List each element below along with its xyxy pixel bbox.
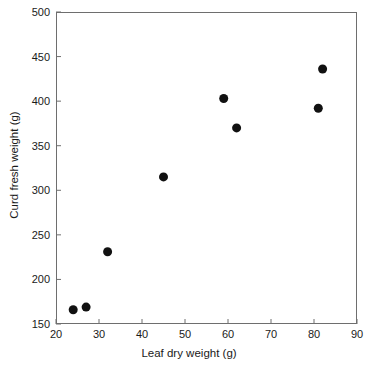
y-tick-label: 300: [20, 185, 50, 196]
y-tick-label: 350: [20, 140, 50, 151]
x-tick-label: 70: [265, 329, 277, 340]
data-point: [232, 123, 241, 132]
data-point: [219, 94, 228, 103]
x-axis-title: Leaf dry weight (g): [0, 347, 378, 359]
data-point: [103, 247, 112, 256]
y-tick-label: 200: [20, 274, 50, 285]
y-tick-label: 400: [20, 96, 50, 107]
data-point: [314, 104, 323, 113]
y-tick-label: 450: [20, 51, 50, 62]
x-tick-label: 80: [308, 329, 320, 340]
data-point: [159, 172, 168, 181]
x-tick-label: 60: [222, 329, 234, 340]
y-tick-label: 150: [20, 319, 50, 330]
data-point: [82, 303, 91, 312]
y-axis-ticks: [56, 12, 61, 324]
y-tick-label: 250: [20, 229, 50, 240]
x-axis-ticks: [56, 319, 357, 324]
data-point-group: [69, 65, 327, 315]
data-point: [318, 65, 327, 74]
scatter-plot-figure: 2030405060708090 15020025030035040045050…: [0, 0, 378, 369]
x-tick-label: 90: [351, 329, 363, 340]
x-tick-label: 50: [179, 329, 191, 340]
x-tick-label: 40: [136, 329, 148, 340]
plot-canvas: [0, 0, 378, 369]
y-tick-label: 500: [20, 7, 50, 18]
y-axis-title: Curd fresh weight (g): [8, 55, 20, 275]
x-tick-label: 30: [93, 329, 105, 340]
data-point: [69, 305, 78, 314]
x-tick-label: 20: [50, 329, 62, 340]
